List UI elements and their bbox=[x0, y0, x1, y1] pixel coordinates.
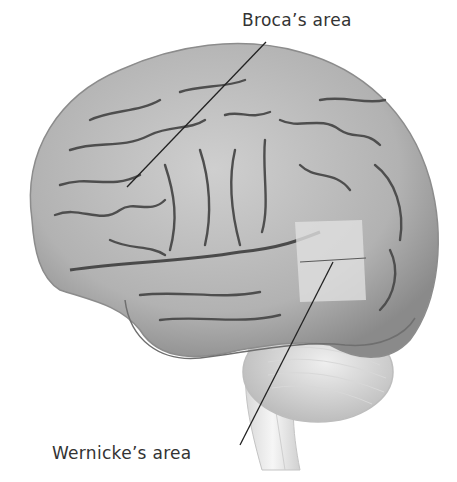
wernicke-region bbox=[295, 220, 366, 302]
brain-diagram: Broca’s area Wernicke’s area bbox=[0, 0, 457, 482]
broca-area-label: Broca’s area bbox=[242, 10, 352, 30]
wernicke-area-label: Wernicke’s area bbox=[52, 443, 192, 463]
brain-illustration bbox=[0, 0, 457, 482]
cerebrum bbox=[30, 44, 438, 359]
